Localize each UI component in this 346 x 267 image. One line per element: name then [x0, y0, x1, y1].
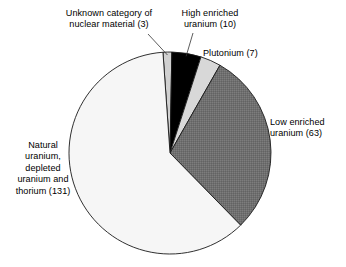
leader-line-unknown-category [148, 34, 167, 55]
pie-chart-figure: Unknown category of nuclear material (3)… [0, 0, 346, 267]
pie-slices-group [69, 52, 271, 254]
slice-label-plutonium: Plutonium (7) [203, 48, 287, 59]
slice-label-natural-uranium: Natural uranium, depleted uranium and th… [6, 140, 80, 197]
slice-label-high-enriched-uranium: High enriched uranium (10) [167, 8, 253, 31]
slice-label-low-enriched-uranium: Low enriched uranium (63) [270, 117, 346, 140]
slice-label-unknown-category: Unknown category of nuclear material (3) [44, 8, 174, 31]
leader-line-high-enriched-uranium [186, 33, 193, 56]
